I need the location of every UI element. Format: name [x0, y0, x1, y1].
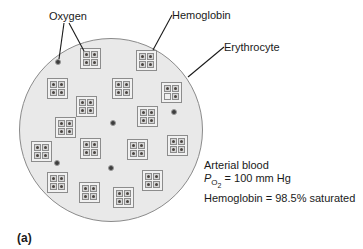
bound-oxygen-dot — [149, 55, 152, 58]
hemoglobin-molecule — [167, 135, 188, 156]
bound-oxygen-dot — [147, 175, 150, 178]
hemoglobin-molecule — [79, 182, 100, 203]
oxygen-binding-site — [140, 117, 147, 124]
bound-oxygen-dot — [60, 177, 63, 180]
oxygen-binding-site — [91, 51, 98, 58]
oxygen-binding-site — [82, 193, 89, 200]
bound-oxygen-dot — [85, 143, 88, 146]
bound-oxygen-dot — [174, 87, 177, 90]
oxygen-binding-site — [87, 107, 94, 114]
bound-oxygen-dot — [52, 185, 55, 188]
bound-oxygen-dot — [60, 91, 63, 94]
bound-oxygen-dot — [117, 83, 120, 86]
bound-oxygen-dot — [84, 195, 87, 198]
bound-oxygen-dot — [89, 109, 92, 112]
bound-oxygen-dot — [60, 122, 63, 125]
annotation-line-saturation: Hemoglobin = 98.5% saturated — [204, 192, 355, 205]
oxygen-binding-site — [34, 144, 41, 151]
oxygen-binding-site — [116, 190, 123, 197]
oxygen-binding-site — [90, 185, 97, 192]
oxygen-binding-site — [153, 173, 160, 180]
oxygen-binding-site — [91, 59, 98, 66]
free-oxygen-dot — [108, 165, 114, 171]
bound-oxygen-dot — [93, 53, 96, 56]
bound-oxygen-dot — [93, 143, 96, 146]
oxygen-binding-site — [138, 150, 145, 157]
oxygen-binding-site — [58, 81, 65, 88]
oxygen-binding-site — [87, 99, 94, 106]
bound-oxygen-dot — [126, 200, 129, 203]
hemoglobin-molecule — [31, 141, 52, 162]
oxygen-binding-site — [83, 59, 90, 66]
arterial-blood-annotation: Arterial blood PO2 = 100 mm Hg Hemoglobi… — [204, 159, 355, 205]
bound-oxygen-dot — [132, 152, 135, 155]
oxygen-binding-site — [178, 146, 185, 153]
bound-oxygen-dot — [150, 119, 153, 122]
free-oxygen-dot — [171, 109, 177, 115]
bound-oxygen-dot — [84, 187, 87, 190]
bound-oxygen-dot — [141, 55, 144, 58]
bound-oxygen-dot — [68, 122, 71, 125]
oxygen-binding-site — [148, 109, 155, 116]
bound-oxygen-dot — [141, 63, 144, 66]
oxygen-binding-site — [147, 53, 154, 60]
bound-oxygen-dot — [150, 111, 153, 114]
oxygen-binding-site — [147, 61, 154, 68]
bound-oxygen-dot — [140, 144, 143, 147]
bound-oxygen-dot — [125, 83, 128, 86]
bound-oxygen-dot — [126, 192, 129, 195]
oxygen-binding-site — [172, 85, 179, 92]
bound-oxygen-dot — [92, 195, 95, 198]
hemoglobin-molecule — [47, 172, 68, 193]
oxygen-binding-site — [123, 81, 130, 88]
oxygen-binding-site — [58, 183, 65, 190]
bound-oxygen-dot — [52, 83, 55, 86]
bound-oxygen-dot — [180, 140, 183, 143]
bound-oxygen-dot — [149, 63, 152, 66]
oxygen-binding-site — [58, 128, 65, 135]
oxygen-binding-site — [50, 183, 57, 190]
bound-oxygen-dot — [44, 146, 47, 149]
oxygen-binding-site — [50, 81, 57, 88]
bound-oxygen-dot — [85, 151, 88, 154]
oxygen-binding-site — [145, 173, 152, 180]
oxygen-binding-site — [139, 53, 146, 60]
oxygen-binding-site — [79, 107, 86, 114]
oxygen-binding-site — [42, 152, 49, 159]
bound-oxygen-dot — [36, 154, 39, 157]
oxygen-binding-site — [170, 146, 177, 153]
bound-oxygen-dot — [89, 101, 92, 104]
hemoglobin-molecule — [142, 170, 163, 191]
hemoglobin-molecule — [76, 96, 97, 117]
oxygen-binding-site — [34, 152, 41, 159]
oxygen-binding-site — [50, 175, 57, 182]
bound-oxygen-dot — [68, 130, 71, 133]
bound-oxygen-dot — [44, 154, 47, 157]
oxygen-binding-site — [172, 93, 179, 100]
annotation-line-po2: PO2 = 100 mm Hg — [204, 172, 355, 192]
bound-oxygen-dot — [36, 146, 39, 149]
bound-oxygen-dot — [52, 177, 55, 180]
bound-oxygen-dot — [60, 83, 63, 86]
bound-oxygen-dot — [118, 192, 121, 195]
oxygen-binding-site — [123, 89, 130, 96]
bound-oxygen-dot — [93, 61, 96, 64]
bound-oxygen-dot — [85, 61, 88, 64]
bound-oxygen-dot — [147, 183, 150, 186]
bound-oxygen-dot — [166, 87, 169, 90]
hemoglobin-molecule — [161, 82, 182, 103]
oxygen-binding-site — [82, 185, 89, 192]
hemoglobin-molecule — [80, 48, 101, 69]
hemoglobin-molecule — [113, 187, 134, 208]
bound-oxygen-dot — [142, 119, 145, 122]
oxygen-binding-site — [170, 138, 177, 145]
hemoglobin-label: Hemoglobin — [172, 10, 231, 21]
bound-oxygen-dot — [117, 91, 120, 94]
bound-oxygen-dot — [180, 148, 183, 151]
hemoglobin-molecule — [137, 106, 158, 127]
hemoglobin-molecule — [47, 78, 68, 99]
oxygen-binding-site — [124, 198, 131, 205]
panel-label: (a) — [17, 231, 32, 245]
oxygen-binding-site — [130, 150, 137, 157]
po2-value: = 100 mm Hg — [221, 172, 290, 184]
